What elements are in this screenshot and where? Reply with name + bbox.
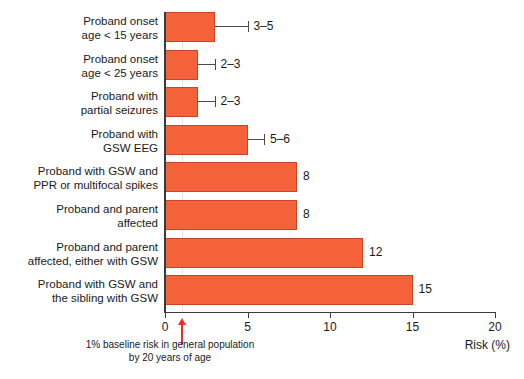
bar[interactable]	[165, 238, 363, 268]
bar-value-label: 5–6	[270, 132, 290, 146]
error-bar	[198, 64, 215, 65]
bar-row: 8	[0, 162, 524, 192]
x-tick-label: 0	[162, 320, 169, 334]
bar-value-label: 2–3	[221, 57, 241, 71]
bar-row: 5–6	[0, 125, 524, 155]
baseline-note: 1% baseline risk in general population b…	[0, 338, 340, 364]
error-bar	[248, 139, 265, 140]
x-axis-title: Risk (%)	[465, 338, 510, 352]
bar-value-label: 2–3	[221, 94, 241, 108]
bar-value-label: 8	[303, 207, 310, 221]
bar-row: 15	[0, 275, 524, 305]
bar-value-label: 12	[369, 245, 382, 259]
risk-bar-chart: Proband onsetage < 15 yearsProband onset…	[0, 0, 524, 379]
error-bar-cap	[264, 134, 265, 145]
bar-value-label: 15	[419, 282, 432, 296]
error-bar-cap	[215, 59, 216, 70]
bar-row: 8	[0, 200, 524, 230]
y-axis-line	[164, 12, 166, 313]
bar-row: 2–3	[0, 50, 524, 80]
bar[interactable]	[165, 200, 297, 230]
bar[interactable]	[165, 12, 215, 42]
bar-row: 12	[0, 238, 524, 268]
baseline-note-line1: 1% baseline risk in general population	[0, 338, 340, 351]
bar[interactable]	[165, 50, 198, 80]
x-tick-label: 5	[244, 320, 251, 334]
baseline-note-line2: by 20 years of age	[0, 351, 340, 364]
x-tick-label: 15	[406, 320, 419, 334]
x-tick	[495, 312, 496, 318]
x-tick	[413, 312, 414, 318]
x-tick	[165, 312, 166, 318]
x-tick-label: 20	[488, 320, 501, 334]
bar-row: 3–5	[0, 12, 524, 42]
bar-value-label: 8	[303, 169, 310, 183]
bar-value-label: 3–5	[254, 19, 274, 33]
x-tick	[330, 312, 331, 318]
error-bar	[215, 26, 248, 27]
error-bar-cap	[215, 96, 216, 107]
bar[interactable]	[165, 275, 413, 305]
bar[interactable]	[165, 125, 248, 155]
x-tick	[248, 312, 249, 318]
error-bar	[198, 101, 215, 102]
bar[interactable]	[165, 87, 198, 117]
bar[interactable]	[165, 162, 297, 192]
bar-row: 2–3	[0, 87, 524, 117]
x-tick-label: 10	[323, 320, 336, 334]
error-bar-cap	[248, 21, 249, 32]
